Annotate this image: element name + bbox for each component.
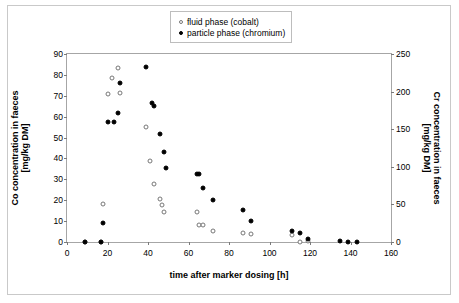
data-point [143, 64, 148, 69]
x-axis-tick-mark [148, 242, 149, 245]
x-axis-tick-label: 40 [143, 248, 152, 258]
y-axis-right-tick-label: 200 [396, 87, 426, 97]
plot-inner [67, 54, 391, 242]
y-axis-left-tick-mark [64, 179, 67, 180]
y-axis-left-tick-mark [64, 200, 67, 201]
data-point [143, 124, 148, 129]
y-axis-left-tick-label: 0 [35, 237, 63, 247]
x-axis-tick-mark [351, 242, 352, 245]
data-point [249, 232, 254, 237]
y-axis-right-label-line1: Cr concentration in faeces [432, 53, 442, 243]
data-point [160, 203, 165, 208]
data-point [200, 185, 205, 190]
data-point [111, 119, 116, 124]
x-axis-tick-mark [391, 242, 392, 245]
data-point [101, 221, 106, 226]
x-axis-tick-mark [310, 242, 311, 245]
x-axis-label: time after marker dosing [h] [66, 270, 392, 280]
plot-area: 0102030405060708090050100150200250020406… [66, 53, 392, 243]
x-axis-tick-label: 100 [262, 248, 276, 258]
data-point [99, 240, 104, 245]
data-point [152, 103, 157, 108]
x-axis-tick-label: 80 [224, 248, 233, 258]
legend-label-fluid-phase: fluid phase (cobalt) [187, 17, 259, 27]
x-axis-tick-label: 140 [343, 248, 357, 258]
data-point [105, 91, 110, 96]
x-axis-tick-mark [67, 242, 68, 245]
data-point [162, 149, 167, 154]
x-axis-tick-label: 120 [303, 248, 317, 258]
data-point [338, 239, 343, 244]
y-axis-right-label-line2: [mg/kg DM] [422, 53, 432, 243]
legend-label-particle-phase: particle phase (chromium) [187, 28, 285, 38]
x-axis-tick-label: 0 [65, 248, 70, 258]
x-axis-tick-mark [229, 242, 230, 245]
data-point [162, 210, 167, 215]
data-point [297, 239, 302, 244]
x-axis-tick-label: 20 [103, 248, 112, 258]
data-point [354, 239, 359, 244]
legend-item-particle-phase: particle phase (chromium) [175, 27, 285, 38]
y-axis-left-tick-mark [64, 96, 67, 97]
data-point [200, 222, 205, 227]
y-axis-left-tick-label: 20 [35, 195, 63, 205]
data-point [210, 228, 215, 233]
y-axis-left-tick-label: 90 [35, 49, 63, 59]
data-point [305, 236, 310, 241]
legend-item-fluid-phase: fluid phase (cobalt) [175, 16, 285, 27]
x-axis-tick-mark [270, 242, 271, 245]
y-axis-left-tick-label: 70 [35, 91, 63, 101]
y-axis-right-tick-mark [391, 54, 394, 55]
data-point [152, 181, 157, 186]
chart-legend: fluid phase (cobalt) particle phase (chr… [170, 11, 292, 43]
x-axis-tick-label: 160 [384, 248, 398, 258]
data-point [109, 76, 114, 81]
x-axis-tick-mark [108, 242, 109, 245]
data-point [83, 240, 88, 245]
data-point [241, 230, 246, 235]
y-axis-left-tick-mark [64, 158, 67, 159]
data-point [117, 80, 122, 85]
data-point [196, 171, 201, 176]
open-circle-icon [175, 20, 187, 24]
data-point [241, 208, 246, 213]
y-axis-right-tick-label: 0 [396, 237, 426, 247]
data-point [148, 158, 153, 163]
data-point [194, 210, 199, 215]
data-point [101, 201, 106, 206]
y-axis-left-tick-label: 30 [35, 174, 63, 184]
y-axis-right-tick-label: 100 [396, 162, 426, 172]
x-axis-tick-mark [189, 242, 190, 245]
y-axis-left-tick-mark [64, 138, 67, 139]
data-point [117, 91, 122, 96]
y-axis-left-tick-label: 10 [35, 216, 63, 226]
data-point [249, 218, 254, 223]
chart-figure: Animal 1 Co concentration in faeces [mg/… [0, 0, 459, 303]
y-axis-left-tick-mark [64, 221, 67, 222]
data-point [115, 65, 120, 70]
data-point [105, 120, 110, 125]
y-axis-left-tick-mark [64, 54, 67, 55]
y-axis-left-tick-mark [64, 75, 67, 76]
y-axis-left-tick-label: 40 [35, 153, 63, 163]
data-point [289, 229, 294, 234]
y-axis-left-tick-label: 80 [35, 70, 63, 80]
y-axis-left-tick-mark [64, 117, 67, 118]
y-axis-right-tick-label: 250 [396, 49, 426, 59]
y-axis-left-label-line1: Co concentration in faeces [10, 53, 20, 243]
y-axis-left-label-line2: [mg/kg DM] [20, 53, 30, 243]
data-point [115, 110, 120, 115]
y-axis-right-label: Cr concentration in faeces [mg/kg DM] [426, 53, 442, 243]
y-axis-right-tick-mark [391, 167, 394, 168]
data-point [297, 230, 302, 235]
y-axis-right-tick-label: 150 [396, 124, 426, 134]
y-axis-right-tick-label: 50 [396, 199, 426, 209]
data-point [164, 165, 169, 170]
y-axis-right-tick-mark [391, 129, 394, 130]
data-point [210, 197, 215, 202]
y-axis-right-tick-mark [391, 92, 394, 93]
data-point [158, 131, 163, 136]
y-axis-left-label: Co concentration in faeces [mg/kg DM] [10, 53, 26, 243]
data-point [158, 196, 163, 201]
y-axis-left-tick-label: 50 [35, 133, 63, 143]
